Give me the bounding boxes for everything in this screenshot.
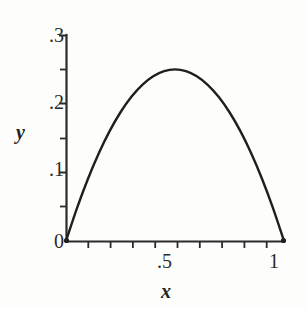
x-axis-title: x <box>161 281 171 301</box>
curve-endpoint-origin <box>64 238 69 243</box>
x-tick-label-1: 1 <box>269 251 279 271</box>
x-tick-label-0.5: .5 <box>157 251 172 271</box>
origin-label: 0 <box>54 231 64 251</box>
figure-canvas: .3 .2 .1 0 .5 1 y x <box>0 0 307 309</box>
curve-endpoint-one <box>281 238 286 243</box>
y-tick-label-0.1: .1 <box>49 159 64 179</box>
parabola-curve <box>66 69 284 241</box>
parabola-plot <box>0 0 307 309</box>
y-tick-label-0.2: .2 <box>49 92 64 112</box>
y-tick-label-0.3: .3 <box>49 25 64 45</box>
y-axis-title: y <box>16 122 25 142</box>
